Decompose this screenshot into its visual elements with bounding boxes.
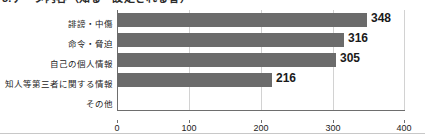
x-tick-label-400: 400 (396, 123, 411, 133)
bar-value-1: 316 (348, 31, 368, 45)
x-tick-label-200: 200 (253, 123, 268, 133)
bar-3 (117, 73, 272, 87)
chart-screenshot: 3.データ内容（知る・設定される者） 誹謗・中傷 命令・脅迫 自己の個人情報 知… (0, 0, 425, 134)
category-label-4: その他 (0, 97, 113, 109)
category-label-0: 誹謗・中傷 (0, 17, 113, 29)
category-label-2: 自己の個人情報 (0, 57, 113, 69)
bar-value-3: 216 (276, 71, 296, 85)
bar-2 (117, 53, 336, 67)
plot-area: 348 316 305 216 0 100 200 300 400 (117, 10, 405, 110)
category-label-3: 知人等第三者に関する情報 (0, 77, 113, 89)
bar-row: 316 (117, 30, 405, 50)
bar-value-0: 348 (371, 11, 391, 25)
x-axis-line (117, 110, 405, 111)
bar-1 (117, 33, 344, 47)
figure-title-text: 3.データ内容（知る・設定される者） (2, 0, 191, 5)
page-bottom-rule (0, 133, 425, 134)
bar-row (117, 90, 405, 110)
x-tick-label-300: 300 (325, 123, 340, 133)
bar-0 (117, 13, 367, 27)
bar-value-2: 305 (340, 51, 360, 65)
category-label-1: 命令・脅迫 (0, 37, 113, 49)
clipped-figure-title: 3.データ内容（知る・設定される者） (0, 0, 425, 7)
x-tick-label-100: 100 (181, 123, 196, 133)
bar-row: 216 (117, 70, 405, 90)
bar-row: 348 (117, 10, 405, 30)
x-tick-label-0: 0 (114, 123, 119, 133)
bar-row: 305 (117, 50, 405, 70)
